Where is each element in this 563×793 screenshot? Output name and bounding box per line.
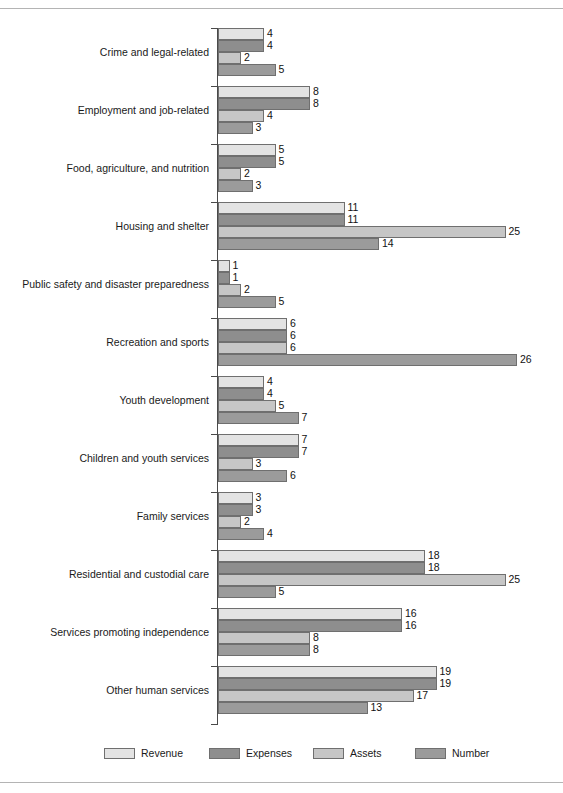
category-label: Housing and shelter bbox=[4, 220, 209, 232]
bar-assets bbox=[218, 52, 241, 64]
bar-number bbox=[218, 528, 264, 540]
bar-number bbox=[218, 238, 379, 250]
bar-number bbox=[218, 470, 287, 482]
bar-revenue bbox=[218, 550, 425, 562]
bar-assets bbox=[218, 632, 310, 644]
bar-value-label: 4 bbox=[267, 39, 273, 52]
bar-value-label: 4 bbox=[267, 527, 273, 540]
bar-value-label: 7 bbox=[302, 411, 308, 424]
bar-group: Food, agriculture, and nutrition5523 bbox=[0, 144, 563, 192]
bar-revenue bbox=[218, 86, 310, 98]
bar-assets bbox=[218, 690, 414, 702]
legend-swatch-number bbox=[415, 748, 446, 759]
bar-group: Children and youth services7736 bbox=[0, 434, 563, 482]
bar-group: Crime and legal-related4425 bbox=[0, 28, 563, 76]
bar-assets bbox=[218, 342, 287, 354]
bar-revenue bbox=[218, 376, 264, 388]
bar-group: Employment and job-related8843 bbox=[0, 86, 563, 134]
bar-number bbox=[218, 412, 299, 424]
legend-item-assets[interactable]: Assets bbox=[313, 744, 382, 762]
category-label: Recreation and sports bbox=[4, 336, 209, 348]
chart-legend: RevenueExpensesAssetsNumber bbox=[0, 744, 563, 766]
bar-value-label: 25 bbox=[509, 225, 521, 238]
legend-swatch-assets bbox=[313, 748, 344, 759]
bar-value-label: 18 bbox=[428, 561, 440, 574]
bar-expenses bbox=[218, 388, 264, 400]
bar-value-label: 11 bbox=[348, 213, 359, 226]
bottom-divider bbox=[0, 782, 563, 783]
bar-assets bbox=[218, 168, 241, 180]
bar-assets bbox=[218, 400, 276, 412]
bar-value-label: 8 bbox=[313, 643, 319, 656]
bar-value-label: 14 bbox=[382, 237, 394, 250]
bar-revenue bbox=[218, 434, 299, 446]
bar-value-label: 26 bbox=[520, 353, 532, 366]
bar-value-label: 2 bbox=[244, 167, 250, 180]
bar-value-label: 5 bbox=[279, 155, 285, 168]
bar-revenue bbox=[218, 492, 253, 504]
category-label: Food, agriculture, and nutrition bbox=[4, 162, 209, 174]
bar-value-label: 7 bbox=[302, 445, 308, 458]
bar-value-label: 5 bbox=[279, 63, 285, 76]
legend-item-revenue[interactable]: Revenue bbox=[104, 744, 183, 762]
bar-group: Other human services19191713 bbox=[0, 666, 563, 714]
bar-group: Housing and shelter11112514 bbox=[0, 202, 563, 250]
bar-group: Residential and custodial care1818255 bbox=[0, 550, 563, 598]
category-label: Employment and job-related bbox=[4, 104, 209, 116]
bar-number bbox=[218, 64, 276, 76]
bar-group: Youth development4457 bbox=[0, 376, 563, 424]
bar-value-label: 3 bbox=[256, 503, 262, 516]
bar-value-label: 6 bbox=[290, 469, 296, 482]
bar-value-label: 5 bbox=[279, 399, 285, 412]
axis-tick bbox=[211, 724, 217, 725]
category-label: Children and youth services bbox=[4, 452, 209, 464]
bar-value-label: 25 bbox=[509, 573, 521, 586]
bar-value-label: 5 bbox=[279, 585, 285, 598]
top-divider bbox=[0, 8, 563, 9]
bar-expenses bbox=[218, 562, 425, 574]
bar-value-label: 13 bbox=[371, 701, 383, 714]
legend-label: Number bbox=[452, 747, 489, 759]
bar-number bbox=[218, 180, 253, 192]
bar-group: Public safety and disaster preparedness1… bbox=[0, 260, 563, 308]
bar-expenses bbox=[218, 620, 402, 632]
category-label: Services promoting independence bbox=[4, 626, 209, 638]
bar-revenue bbox=[218, 202, 345, 214]
legend-label: Assets bbox=[350, 747, 382, 759]
bar-revenue bbox=[218, 144, 276, 156]
bar-assets bbox=[218, 226, 506, 238]
bar-value-label: 3 bbox=[256, 457, 262, 470]
bar-number bbox=[218, 644, 310, 656]
bar-chart: Crime and legal-related4425Employment an… bbox=[0, 22, 563, 728]
bar-revenue bbox=[218, 28, 264, 40]
bar-expenses bbox=[218, 330, 287, 342]
bar-group: Services promoting independence161688 bbox=[0, 608, 563, 656]
bar-assets bbox=[218, 574, 506, 586]
bar-group: Recreation and sports66626 bbox=[0, 318, 563, 366]
bar-group: Family services3324 bbox=[0, 492, 563, 540]
bar-value-label: 1 bbox=[233, 271, 239, 284]
legend-item-number[interactable]: Number bbox=[415, 744, 489, 762]
bar-assets bbox=[218, 284, 241, 296]
bar-revenue bbox=[218, 260, 230, 272]
bar-value-label: 16 bbox=[405, 619, 417, 632]
category-label: Other human services bbox=[4, 684, 209, 696]
bar-value-label: 17 bbox=[417, 689, 429, 702]
bar-value-label: 4 bbox=[267, 109, 273, 122]
bar-number bbox=[218, 296, 276, 308]
bar-expenses bbox=[218, 40, 264, 52]
bar-value-label: 4 bbox=[267, 387, 273, 400]
bar-value-label: 5 bbox=[279, 295, 285, 308]
bar-number bbox=[218, 122, 253, 134]
category-label: Residential and custodial care bbox=[4, 568, 209, 580]
bar-value-label: 8 bbox=[313, 97, 319, 110]
bar-revenue bbox=[218, 666, 437, 678]
legend-label: Expenses bbox=[246, 747, 292, 759]
bar-revenue bbox=[218, 608, 402, 620]
category-label: Youth development bbox=[4, 394, 209, 406]
bar-number bbox=[218, 354, 517, 366]
bar-value-label: 19 bbox=[440, 677, 452, 690]
legend-item-expenses[interactable]: Expenses bbox=[209, 744, 292, 762]
legend-swatch-expenses bbox=[209, 748, 240, 759]
category-label: Crime and legal-related bbox=[4, 46, 209, 58]
